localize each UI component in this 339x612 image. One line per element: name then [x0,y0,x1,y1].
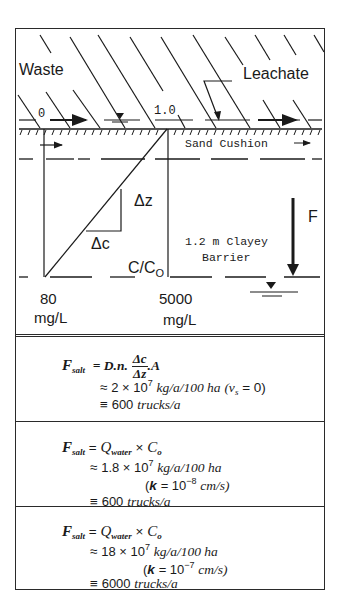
trucks-unit: trucks/a [137,397,181,412]
flux-subscript: salt [72,531,85,541]
exponent: 7 [149,458,154,468]
diagram-equation-divider [15,334,325,337]
equation-3-line-1: Fsalt = Qwater × Co [62,524,162,541]
flow-subscript: water [111,531,132,541]
equation-2-line-2: ≈ 1.8 × 107 kg/a/100 ha [90,459,221,475]
flux-symbol: F [62,439,72,455]
flow-symbol: Q [100,523,111,539]
c0-subscript: O [156,267,165,279]
flux-value: 1.8 × 10 [101,460,148,475]
trucks-value: 600 [112,397,134,412]
equals-symbol: = [89,440,97,455]
concentration-symbol: C [147,439,157,455]
right-concentration-value: 5000 [159,291,192,306]
landfill-barrier-diagram [0,0,339,340]
area-suffix: .A [148,358,160,373]
exponent: 7 [145,542,150,552]
flux-label: F [308,209,318,225]
equation-2-line-4: ≡ 600 trucks/a [90,495,171,509]
equals-symbol: = [89,524,97,539]
permeability-symbol: k [147,562,155,577]
flux-value: 18 × 10 [101,544,145,559]
approx-symbol: ≈ [90,460,97,475]
equation-3-line-3: (k = 10−7 cm/s) [143,561,228,577]
permeability-value: = 10 [161,478,187,493]
c-over-c0-text: C/C [128,259,156,276]
flux-value: 2 × 10 [111,380,148,395]
permeability-unit: cm/s) [198,562,227,577]
equation-1-line-3: ≡ 600 trucks/a [100,398,181,412]
trucks-unit: trucks/a [127,494,171,509]
flux-subscript: salt [72,447,85,457]
times-symbol: × [136,524,144,539]
equation-divider-1 [15,421,325,422]
trucks-value: 600 [102,494,124,509]
left-concentration-value: 80 [40,291,57,306]
equation-2-line-3: (k = 10−8 cm/s) [145,477,230,493]
left-concentration-unit: mg/L [34,310,67,325]
water-table-triangle-icon [250,282,298,296]
gradient-triangle [86,189,121,231]
exponent: −7 [184,560,194,570]
permeability-unit: cm/s) [200,478,229,493]
leachate-label: Leachate [243,66,309,82]
flux-symbol: F [62,523,72,539]
equiv-symbol: ≡ [100,397,108,412]
waste-label: Waste [19,62,64,78]
equiv-symbol: ≡ [90,494,98,509]
gradient-fraction: ΔcΔz [132,352,148,380]
barrier-label-line2: Barrier [202,252,250,264]
flow-subscript: water [111,447,132,457]
liner-hatch-ticks [20,130,320,135]
fraction-numerator: Δc [132,352,148,367]
sand-cushion-label: Sand Cushion [185,138,268,150]
approx-symbol: ≈ [100,380,107,395]
trucks-value: 6000 [102,576,131,591]
delta-z-label: Δz [134,193,153,209]
delta-c-label: Δc [91,236,110,252]
flux-symbol: F [62,357,72,373]
concentration-subscript: o [157,531,162,541]
equation-3-line-4: ≡ 6000 trucks/a [90,577,178,591]
concentration-symbol: C [147,523,157,539]
permeability-value: = 10 [159,562,185,577]
times-symbol: × [136,440,144,455]
equation-1-line-1: Fsalt = D.n. ΔcΔz.A [62,352,160,380]
concentration-ratio-one: 1.0 [154,105,176,117]
trucks-unit: trucks/a [134,576,178,591]
concentration-subscript: o [157,447,162,457]
diffusion-prefix: = D.n. [93,358,128,373]
exponent: −8 [186,476,196,486]
flux-subscript: salt [72,365,85,375]
concentration-ratio-zero: 0 [38,108,45,120]
equation-1-line-2: ≈ 2 × 107 kg/a/100 ha (vs = 0) [100,379,266,397]
right-concentration-unit: mg/L [163,312,196,327]
equiv-symbol: ≡ [90,576,98,591]
equation-2-line-1: Fsalt = Qwater × Co [62,440,162,457]
c-over-c0-label: C/CO [128,260,164,279]
equation-3-line-2: ≈ 18 × 107 kg/a/100 ha [90,543,218,559]
flux-unit: kg/a/100 ha [156,380,220,395]
exponent: 7 [148,378,153,388]
approx-symbol: ≈ [90,544,97,559]
flux-unit: kg/a/100 ha [157,460,221,475]
condition-tail: = 0) [238,380,265,395]
flow-symbol: Q [100,439,111,455]
barrier-label-line1: 1.2 m Clayey [185,236,268,248]
permeability-symbol: k [149,478,157,493]
condition-open: (v [224,380,235,395]
flux-unit: kg/a/100 ha [154,544,218,559]
